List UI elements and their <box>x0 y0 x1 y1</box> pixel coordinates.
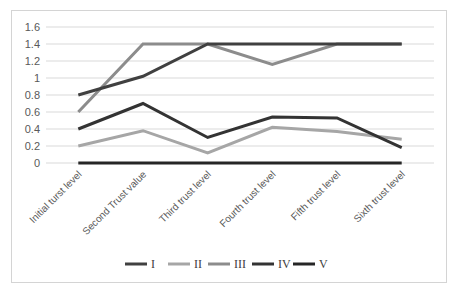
series-line-i <box>78 44 401 95</box>
y-tick-label: 1.2 <box>25 55 40 67</box>
legend-label: I <box>151 257 155 271</box>
y-tick-label: 1.4 <box>25 38 40 50</box>
legend-label: IV <box>278 257 291 271</box>
x-tick-label: Fifth trust level <box>289 169 343 223</box>
legend-label: II <box>194 257 202 271</box>
series-line-ii <box>78 127 401 153</box>
y-tick-label: 0 <box>34 157 40 169</box>
y-tick-label: 0.2 <box>25 140 40 152</box>
y-tick-label: 0.6 <box>25 106 40 118</box>
x-tick-label: Second Trust value <box>80 168 149 237</box>
y-tick-label: 0.8 <box>25 89 40 101</box>
legend-label: V <box>319 257 328 271</box>
x-axis-ticks: Initial turst levelSecond Trust valueThi… <box>27 168 407 237</box>
legend-label: III <box>234 257 246 271</box>
y-axis-ticks: 00.20.40.60.811.21.41.6 <box>25 21 40 169</box>
data-series <box>78 44 401 163</box>
gridlines <box>46 27 434 163</box>
x-tick-label: Initial turst level <box>27 169 84 226</box>
y-tick-label: 0.4 <box>25 123 40 135</box>
y-tick-label: 1.6 <box>25 21 40 33</box>
x-tick-label: Fourth trust level <box>217 169 277 229</box>
legend: IIIIIIIVV <box>125 257 328 271</box>
x-tick-label: Sixth trust level <box>351 169 407 225</box>
y-tick-label: 1 <box>34 72 40 84</box>
x-tick-label: Third trust level <box>157 169 213 225</box>
line-chart: 00.20.40.60.811.21.41.6 Initial turst le… <box>0 0 457 294</box>
